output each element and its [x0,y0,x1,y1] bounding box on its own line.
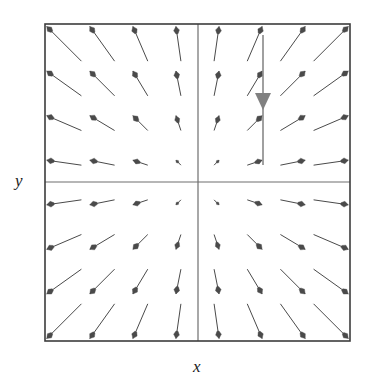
y-axis-label: y [15,172,23,189]
field-arrow [90,304,115,339]
field-arrow [90,235,115,250]
field-arrow [247,304,263,339]
field-arrow [314,26,349,61]
field-arrow [174,304,181,339]
vector-field-figure: y x [0,0,366,388]
field-arrow [47,158,82,165]
field-arrow [214,304,221,339]
annotation-arrowhead [255,93,271,110]
field-arrow [90,115,115,130]
field-arrow [47,26,82,61]
field-arrow [280,200,305,207]
field-arrow [176,160,181,165]
field-arrow [314,269,349,294]
field-arrow [90,269,115,294]
annotation-layer [255,35,271,165]
field-arrow [132,269,147,294]
field-arrow [314,200,349,207]
field-arrow [314,304,349,339]
field-arrow [314,115,349,131]
field-arrow [280,304,305,339]
field-arrow [90,71,115,96]
field-arrow [314,235,349,251]
field-arrow [176,200,181,205]
field-arrow [247,200,262,206]
field-arrow [133,235,148,250]
field-arrow [314,71,349,96]
field-arrow [47,115,82,131]
field-arrow [247,116,262,131]
field-arrow [214,235,220,250]
field-arrow [133,200,148,206]
field-arrow [90,26,115,61]
field-arrow [214,71,221,96]
field-arrow [132,71,147,96]
field-arrow [47,200,82,207]
field-arrow [175,116,181,131]
field-arrow [247,71,262,96]
vector-field-canvas [0,0,366,388]
field-arrow [47,304,82,339]
field-arrow [214,116,220,131]
field-arrow [174,26,181,61]
field-arrow [280,235,305,250]
field-arrow [133,159,148,165]
field-arrow [132,304,148,339]
field-arrow [175,235,181,250]
field-arrow [90,200,115,207]
field-arrow [280,26,305,61]
field-arrow [280,158,305,165]
downward-trajectory-arrow [255,35,271,165]
field-arrow [247,235,262,250]
field-arrow [174,71,181,96]
field-arrow [280,71,305,96]
field-arrow [90,158,115,165]
field-arrow [133,116,148,131]
field-arrow [214,269,221,294]
field-arrow [280,269,305,294]
field-arrow [314,158,349,165]
field-arrow [47,235,82,251]
field-arrow [214,26,221,61]
field-arrow [174,269,181,294]
x-axis-label: x [193,358,201,375]
field-arrow [214,160,219,165]
field-arrow [132,26,148,61]
field-arrow [214,200,219,205]
field-arrow [280,115,305,130]
field-arrow [247,159,262,165]
field-arrow [47,269,82,294]
field-arrow [247,269,262,294]
field-arrow [47,71,82,96]
field-arrow [247,26,263,61]
